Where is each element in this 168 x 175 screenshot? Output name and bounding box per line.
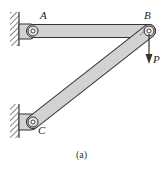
wall-hatch-a: [10, 12, 19, 46]
pin-c: [28, 117, 38, 127]
label-b: B: [144, 9, 151, 21]
label-c: C: [38, 124, 46, 136]
member-bc: [24, 22, 158, 131]
label-a: A: [39, 9, 47, 21]
pin-a: [28, 26, 38, 36]
label-p: P: [152, 53, 160, 65]
truss-diagram: A B C P (a): [0, 0, 168, 175]
wall-hatch-c: [10, 104, 19, 138]
figure-caption: (a): [76, 149, 87, 161]
